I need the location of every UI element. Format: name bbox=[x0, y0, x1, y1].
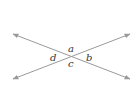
angle-label-d: d bbox=[50, 52, 56, 63]
intersecting-lines-diagram: a b c d bbox=[0, 0, 140, 110]
angle-label-c: c bbox=[68, 58, 74, 69]
angle-label-b: b bbox=[86, 52, 92, 63]
angle-label-a: a bbox=[68, 43, 74, 54]
